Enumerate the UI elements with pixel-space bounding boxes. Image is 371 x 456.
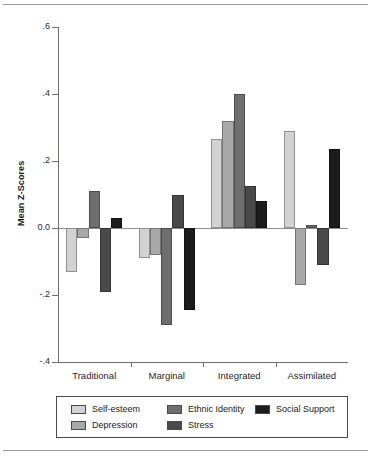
y-tick-label: 0.0 <box>12 222 50 232</box>
y-tick-label: .2 <box>12 155 50 165</box>
legend-item[interactable]: Stress <box>167 420 214 430</box>
legend-item[interactable]: Social Support <box>255 404 335 414</box>
y-tick-label: -.2 <box>12 289 50 299</box>
bar <box>295 228 306 285</box>
legend-label: Self-esteem <box>92 404 140 414</box>
legend-item[interactable]: Self-esteem <box>71 404 140 414</box>
bar <box>306 225 317 228</box>
bar-chart: Mean Z-Scores .6.4.20.0-.2-.4 Traditiona… <box>0 0 371 456</box>
legend-item[interactable]: Depression <box>71 420 138 430</box>
y-tick-mark <box>52 94 58 95</box>
bar <box>100 228 111 292</box>
bar <box>245 186 256 228</box>
y-tick-mark <box>52 27 58 28</box>
legend-label: Stress <box>188 420 214 430</box>
chart-legend: Self-esteemDepressionEthnic IdentityStre… <box>56 396 348 438</box>
figure-container: Mean Z-Scores .6.4.20.0-.2-.4 Traditiona… <box>0 0 371 456</box>
x-axis-category-label: Integrated <box>199 370 279 381</box>
legend-label: Social Support <box>276 404 335 414</box>
y-tick-label: .6 <box>12 21 50 31</box>
bar <box>222 121 233 228</box>
y-tick-mark <box>52 295 58 296</box>
bar <box>234 94 245 228</box>
legend-label: Depression <box>92 420 138 430</box>
bar <box>256 201 267 228</box>
x-axis-category-label: Marginal <box>127 370 207 381</box>
bar <box>161 228 172 325</box>
bar <box>150 228 161 255</box>
bar <box>317 228 328 265</box>
y-tick-label: .4 <box>12 88 50 98</box>
legend-color-swatch <box>71 421 86 430</box>
y-tick-label-box: .4 <box>12 88 50 100</box>
bar <box>66 228 77 272</box>
bar <box>111 218 122 228</box>
bar <box>184 228 195 310</box>
x-axis-category-label: Traditional <box>54 370 134 381</box>
bar <box>211 139 222 228</box>
legend-item[interactable]: Ethnic Identity <box>167 404 245 414</box>
y-tick-mark <box>52 362 58 363</box>
y-axis-title: Mean Z-Scores <box>14 128 28 258</box>
legend-label: Ethnic Identity <box>188 404 245 414</box>
y-tick-label-box: -.4 <box>12 356 50 368</box>
legend-color-swatch <box>167 421 182 430</box>
y-axis-line <box>58 27 59 363</box>
bar <box>89 191 100 228</box>
y-tick-label-box: .6 <box>12 21 50 33</box>
y-tick-label-box: -.2 <box>12 289 50 301</box>
bar <box>139 228 150 258</box>
legend-color-swatch <box>71 405 86 414</box>
x-tick-mark <box>203 362 204 367</box>
y-tick-mark <box>52 161 58 162</box>
bar <box>77 228 88 238</box>
x-axis-category-label: Assimilated <box>272 370 352 381</box>
bar <box>329 149 340 228</box>
y-tick-label: -.4 <box>12 356 50 366</box>
x-tick-mark <box>131 362 132 367</box>
legend-color-swatch <box>167 405 182 414</box>
bar <box>284 131 295 228</box>
bar <box>172 195 183 229</box>
y-tick-label-box: 0.0 <box>12 222 50 234</box>
legend-color-swatch <box>255 405 270 414</box>
y-tick-label-box: .2 <box>12 155 50 167</box>
x-tick-mark <box>276 362 277 367</box>
